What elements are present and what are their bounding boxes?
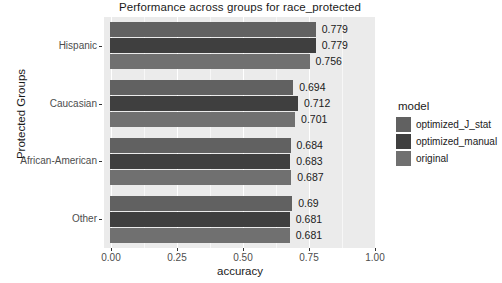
bar-value-label: 0.683 xyxy=(296,154,322,169)
x-tick-mark xyxy=(111,248,112,251)
bar-value-label: 0.779 xyxy=(322,38,348,53)
legend-swatch xyxy=(396,151,411,166)
plot-panel: 0.7790.7790.7560.6940.7120.7010.6840.683… xyxy=(104,17,376,248)
chart-container: Performance across groups for race_prote… xyxy=(0,0,502,283)
y-tick-mark xyxy=(99,104,102,105)
legend-items: optimized_J_statoptimized_manualoriginal xyxy=(396,116,497,167)
bar-value-label: 0.712 xyxy=(304,96,330,111)
legend-item[interactable]: optimized_J_stat xyxy=(396,116,497,133)
bar xyxy=(110,38,316,53)
x-tick-mark xyxy=(243,248,244,251)
bar-value-label: 0.681 xyxy=(296,228,322,243)
bar-value-label: 0.701 xyxy=(301,112,327,127)
x-tick-label: 0.75 xyxy=(289,252,329,263)
y-tick-label: Hispanic xyxy=(59,40,97,51)
x-tick-label: 0.00 xyxy=(91,252,131,263)
bar xyxy=(110,228,290,243)
x-tick-label: 0.25 xyxy=(157,252,197,263)
y-tick-label: African-American xyxy=(20,155,97,166)
bar-value-label: 0.681 xyxy=(296,212,322,227)
legend: model optimized_J_statoptimized_manualor… xyxy=(396,100,497,167)
legend-label: optimized_J_stat xyxy=(416,119,491,130)
bar xyxy=(110,54,310,69)
y-tick-mark xyxy=(99,219,102,220)
bar xyxy=(110,80,293,95)
chart-title: Performance across groups for race_prote… xyxy=(104,1,376,13)
gridline-major xyxy=(375,17,376,248)
legend-label: optimized_manual xyxy=(416,136,497,147)
x-tick-mark xyxy=(309,248,310,251)
legend-item[interactable]: optimized_manual xyxy=(396,133,497,150)
y-tick-mark xyxy=(99,46,102,47)
bar xyxy=(110,212,290,227)
bar xyxy=(110,196,292,211)
legend-swatch xyxy=(396,117,411,132)
bar-value-label: 0.694 xyxy=(299,80,325,95)
bar xyxy=(110,138,291,153)
bar-value-label: 0.69 xyxy=(298,196,318,211)
y-tick-label: Caucasian xyxy=(50,98,97,109)
legend-title: model xyxy=(398,100,497,112)
bar-value-label: 0.756 xyxy=(316,54,342,69)
legend-item[interactable]: original xyxy=(396,150,497,167)
bar xyxy=(110,22,316,37)
bar xyxy=(110,170,291,185)
x-tick-label: 1.00 xyxy=(355,252,395,263)
bar-value-label: 0.684 xyxy=(297,138,323,153)
y-tick-mark xyxy=(99,161,102,162)
bar-value-label: 0.779 xyxy=(322,22,348,37)
x-tick-label: 0.50 xyxy=(223,252,263,263)
x-tick-mark xyxy=(375,248,376,251)
x-tick-mark xyxy=(177,248,178,251)
bar xyxy=(110,154,290,169)
x-axis-title: accuracy xyxy=(104,265,376,277)
bar xyxy=(110,96,298,111)
bar-value-label: 0.687 xyxy=(297,170,323,185)
y-tick-label: Other xyxy=(72,213,97,224)
legend-swatch xyxy=(396,134,411,149)
bar xyxy=(110,112,295,127)
legend-label: original xyxy=(416,153,448,164)
